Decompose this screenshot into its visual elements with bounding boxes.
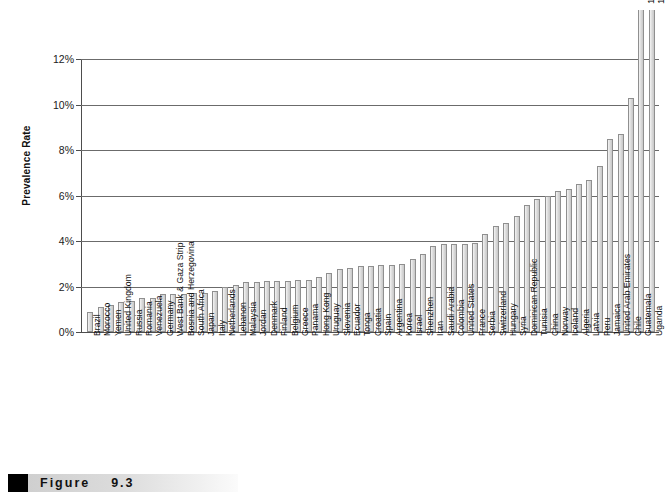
x-axis-category-label: United Kingdom: [124, 274, 133, 336]
x-axis-category-label: Uruguay: [332, 303, 341, 336]
x-axis-category-label: West Bank & Gaza Strip: [176, 242, 185, 336]
x-axis-category-label: South Africa: [197, 289, 206, 336]
x-axis-category-label: Finland: [280, 307, 289, 336]
bar: [597, 166, 603, 332]
caption-label: Figure 9.3: [40, 476, 135, 490]
x-axis-category-label: United Arab Emirates: [623, 254, 632, 336]
x-axis-category-label: Germany: [166, 300, 175, 336]
x-axis-category-label: Yemen: [114, 309, 123, 336]
x-axis-category-label: Argentina: [395, 299, 404, 336]
x-axis-category-label: Spain: [384, 314, 393, 336]
x-axis-category-label: Romania: [145, 301, 154, 336]
x-axis-category-label: Belgium: [291, 305, 300, 336]
x-axis-category-label: Serbia: [488, 311, 497, 336]
x-axis-category-label: Croatia: [374, 308, 383, 336]
x-axis-category-label: Greece: [301, 308, 310, 336]
figure-caption: Figure 9.3: [8, 474, 238, 492]
x-axis-category-label: Saudi Arabia: [447, 287, 456, 336]
x-axis-category-label: Tunisia: [540, 308, 549, 336]
x-axis-category-label: Hong Kong: [322, 293, 331, 336]
x-axis-category-label: France: [478, 309, 487, 336]
bar-value-label: 18.6 %: [655, 0, 666, 4]
x-axis-category-label: Bosnia and Herzegovina: [187, 241, 196, 336]
caption-marker-square: [8, 474, 28, 492]
x-axis-category-label: Slovenia: [343, 303, 352, 336]
x-axis-category-label: Iceland: [571, 308, 580, 336]
x-axis-category-label: Hungary: [509, 303, 518, 336]
x-axis-category-label: Israel: [415, 315, 424, 336]
x-axis-category-label: Norway: [561, 307, 570, 336]
x-axis-category-label: Uganda: [655, 306, 664, 336]
x-axis-category-label: Netherlands: [228, 289, 237, 336]
x-axis-category-label: Shenzhen: [426, 297, 435, 336]
x-axis-category-label: Malaysia: [249, 302, 258, 336]
x-axis-category-label: Algeria: [582, 309, 591, 336]
x-axis-category-label: Colombia: [457, 299, 466, 336]
x-axis-category-label: Brazil: [93, 314, 102, 336]
x-axis-category-label: Jordan: [259, 309, 268, 336]
caption-word: Figure: [40, 476, 90, 490]
x-axis-category-label: Panama: [311, 304, 320, 336]
x-axis-category-label: Japan: [207, 312, 216, 336]
x-axis-category-label: Chile: [634, 316, 643, 336]
x-axis-category-label: Ecuador: [353, 304, 362, 336]
x-axis-category-label: Syria: [519, 316, 528, 336]
x-axis-category-label: Latvia: [592, 313, 601, 336]
x-axis-category-label: Dominican Republic: [530, 259, 539, 336]
bar: [649, 10, 655, 332]
x-axis-category-label: United States: [467, 284, 476, 336]
x-axis-category-label: Iran: [436, 321, 445, 336]
x-axis-category-label: Peru: [603, 318, 612, 336]
figure-container: Prevalence Rate 0%2%4%6%8%10%12% 12.2 %1…: [0, 0, 670, 502]
x-axis-category-label: Jamaica: [613, 304, 622, 336]
x-axis-category-label: Korea: [405, 313, 414, 336]
x-axis-category-label: Denmark: [270, 301, 279, 336]
caption-number: 9.3: [111, 476, 134, 490]
x-axis-category-label: Russia: [135, 309, 144, 336]
x-axis-category-label: China: [551, 313, 560, 336]
x-axis-category-label: Morocco: [103, 303, 112, 336]
bar: [638, 10, 644, 332]
x-axis-category-label: Switzerland: [499, 291, 508, 336]
x-axis-category-label: Venezuela: [155, 295, 164, 336]
chart-bars: 12.2 %18.6 %: [0, 0, 670, 502]
x-axis-category-label: Guatemala: [644, 294, 653, 337]
x-axis-category-label: Italy: [218, 320, 227, 336]
x-axis-category-label: Lebanon: [239, 302, 248, 336]
x-axis-category-label: Tonga: [363, 312, 372, 336]
